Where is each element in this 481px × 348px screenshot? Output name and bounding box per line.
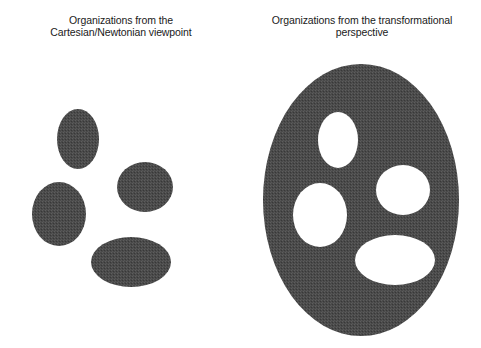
hole-ellipse-bottom [355, 235, 435, 285]
hole-ellipse-left [293, 183, 347, 247]
separate-organizations-group [32, 109, 173, 287]
integrated-organization-group [263, 64, 459, 336]
organization-ellipse-bottom [91, 237, 171, 287]
organization-ellipse-top [57, 109, 99, 169]
hole-ellipse-top [318, 112, 358, 168]
diagram-canvas [0, 0, 481, 348]
hole-ellipse-right [376, 165, 430, 215]
organization-ellipse-left [32, 182, 86, 246]
organization-ellipse-right [117, 162, 173, 212]
container-ellipse [263, 64, 459, 336]
